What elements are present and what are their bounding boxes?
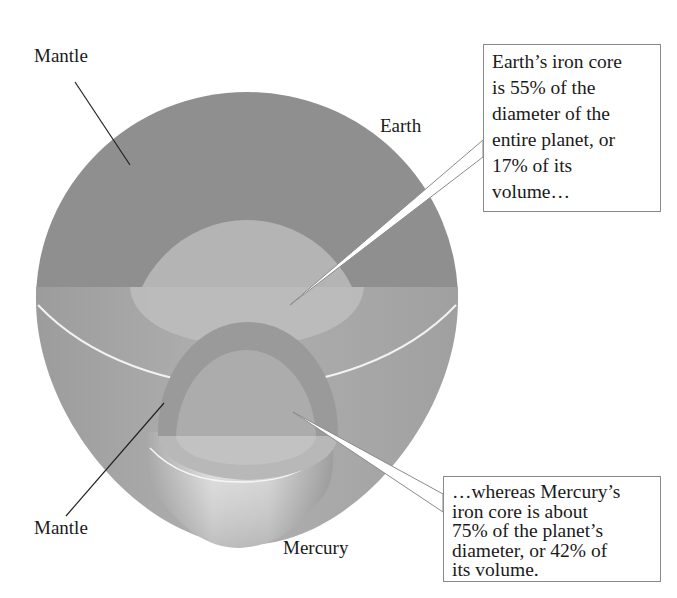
callout-line: iron core is about [452,502,652,522]
callout-line: …whereas Mercury’s [452,482,652,502]
callout-line: volume… [492,179,652,205]
callout-line: Earth’s iron core [492,49,652,75]
callout-line: diameter of the [492,101,652,127]
label-mercury: Mercury [283,537,348,559]
callout-line: is 55% of the [492,75,652,101]
label-earth: Earth [380,115,421,137]
callout-line: its volume. [452,560,652,580]
callout-line: entire planet, or [492,127,652,153]
label-mantle-earth: Mantle [34,45,88,67]
label-mantle-mercury: Mantle [34,517,88,539]
callout-line: diameter, or 42% of [452,541,652,561]
callout-line: 17% of its [492,153,652,179]
earth-mercury-core-diagram: Mantle Earth Mantle Mercury Earth’s iron… [0,0,677,598]
earth-core-callout: Earth’s iron core is 55% of the diameter… [483,44,661,212]
mercury-core-callout: …whereas Mercury’s iron core is about 75… [443,476,661,582]
callout-line: 75% of the planet’s [452,521,652,541]
